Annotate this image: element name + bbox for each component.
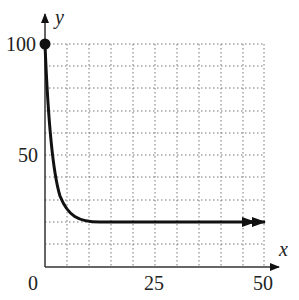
y-tick-50: 50: [18, 144, 38, 166]
start-point: [40, 39, 51, 50]
x-tick-25: 25: [144, 272, 164, 294]
chart: y x 100 50 0 25 50: [0, 0, 299, 300]
grid: [45, 44, 264, 267]
y-tick-100: 100: [6, 33, 36, 55]
x-axis-label: x: [278, 238, 288, 260]
y-axis-label: y: [53, 6, 64, 29]
x-tick-50: 50: [253, 272, 273, 294]
x-tick-0: 0: [28, 272, 38, 294]
